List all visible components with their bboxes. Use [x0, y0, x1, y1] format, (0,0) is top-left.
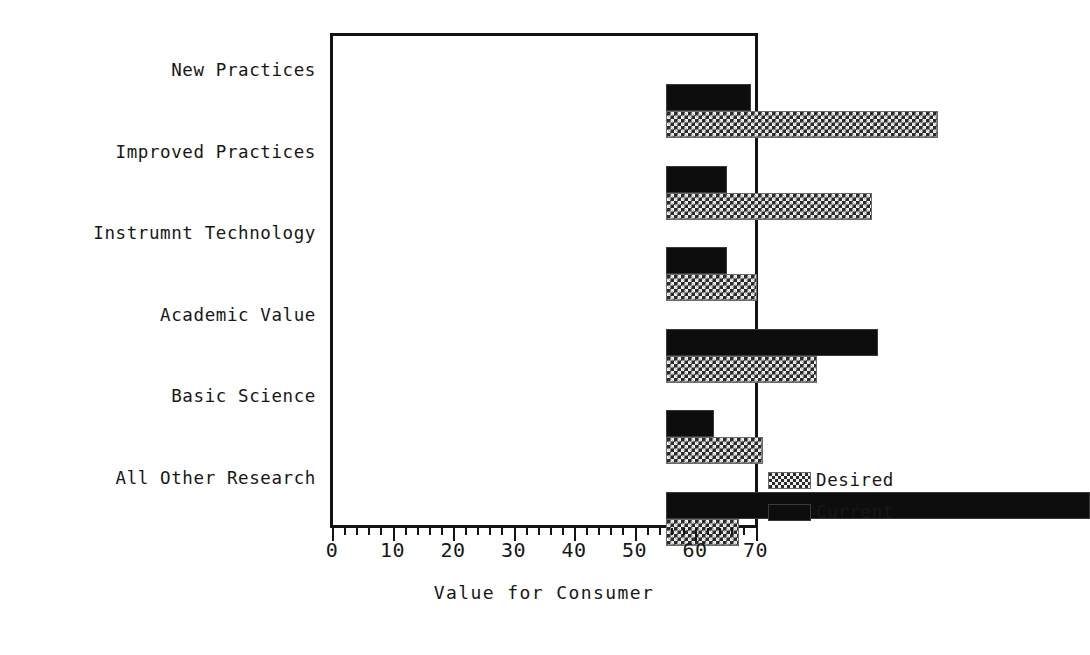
x-axis-minor-tick	[598, 528, 600, 535]
category-axis-labels: New PracticesImproved PracticesInstrumnt…	[0, 33, 316, 528]
category-label: Academic Value	[160, 305, 316, 325]
x-axis-tick-label: 30	[501, 538, 526, 562]
x-axis-tick-labels: 010203040506070	[0, 538, 952, 568]
x-axis-minor-tick	[429, 528, 431, 535]
x-axis-minor-tick	[356, 528, 358, 535]
x-axis-minor-tick	[671, 528, 673, 535]
x-axis-minor-tick	[465, 528, 467, 535]
bar-desired	[666, 193, 872, 220]
x-axis-minor-tick	[610, 528, 612, 535]
bar-desired	[666, 111, 938, 138]
x-axis-minor-tick	[538, 528, 540, 535]
x-axis-minor-tick	[550, 528, 552, 535]
x-axis-title: Value for Consumer	[330, 582, 758, 603]
x-axis-minor-tick	[477, 528, 479, 535]
category-label: Improved Practices	[116, 142, 316, 162]
bar-current	[666, 247, 727, 274]
bar-current	[666, 410, 714, 437]
x-axis-tick-label: 40	[561, 538, 586, 562]
x-axis-minor-tick	[719, 528, 721, 535]
legend-swatch-desired-icon	[768, 472, 811, 489]
bar-desired	[666, 274, 757, 301]
x-axis-minor-tick	[501, 528, 503, 535]
x-axis-minor-tick	[647, 528, 649, 535]
x-axis-minor-tick	[526, 528, 528, 535]
x-axis-tick-label: 20	[440, 538, 465, 562]
x-axis-tick-label: 10	[380, 538, 405, 562]
x-axis-minor-tick	[743, 528, 745, 535]
category-label: All Other Research	[116, 468, 316, 488]
legend-swatch-current-icon	[768, 504, 811, 521]
category-label: Instrumnt Technology	[93, 223, 316, 243]
category-label: New Practices	[171, 60, 316, 80]
chart-legend: Desired Current	[768, 465, 944, 529]
x-axis-minor-tick	[707, 528, 709, 535]
x-axis-minor-tick	[562, 528, 564, 535]
x-axis-minor-tick	[441, 528, 443, 535]
bar-current	[666, 166, 727, 193]
x-axis-minor-tick	[344, 528, 346, 535]
x-axis-tick-label: 50	[622, 538, 647, 562]
x-axis-minor-tick	[659, 528, 661, 535]
x-axis-tick-label: 0	[326, 538, 339, 562]
category-label: Basic Science	[171, 386, 316, 406]
bar-current	[666, 84, 751, 111]
x-axis-minor-tick	[586, 528, 588, 535]
legend-label-desired: Desired	[816, 470, 894, 490]
legend-item-desired: Desired	[768, 465, 944, 495]
x-axis-minor-tick	[405, 528, 407, 535]
x-axis-minor-tick	[622, 528, 624, 535]
x-axis-tick-label: 60	[682, 538, 707, 562]
x-axis-minor-tick	[417, 528, 419, 535]
legend-label-current: Current	[816, 502, 894, 522]
plot-frame	[330, 33, 758, 528]
legend-item-current: Current	[768, 497, 944, 527]
x-axis-tick-label: 70	[743, 538, 768, 562]
bar-desired	[666, 437, 763, 464]
x-axis-minor-tick	[368, 528, 370, 535]
x-axis-minor-tick	[380, 528, 382, 535]
x-axis-minor-tick	[489, 528, 491, 535]
bar-desired	[666, 356, 817, 383]
bar-current	[666, 329, 878, 356]
x-axis-minor-tick	[731, 528, 733, 535]
x-axis-minor-tick	[683, 528, 685, 535]
